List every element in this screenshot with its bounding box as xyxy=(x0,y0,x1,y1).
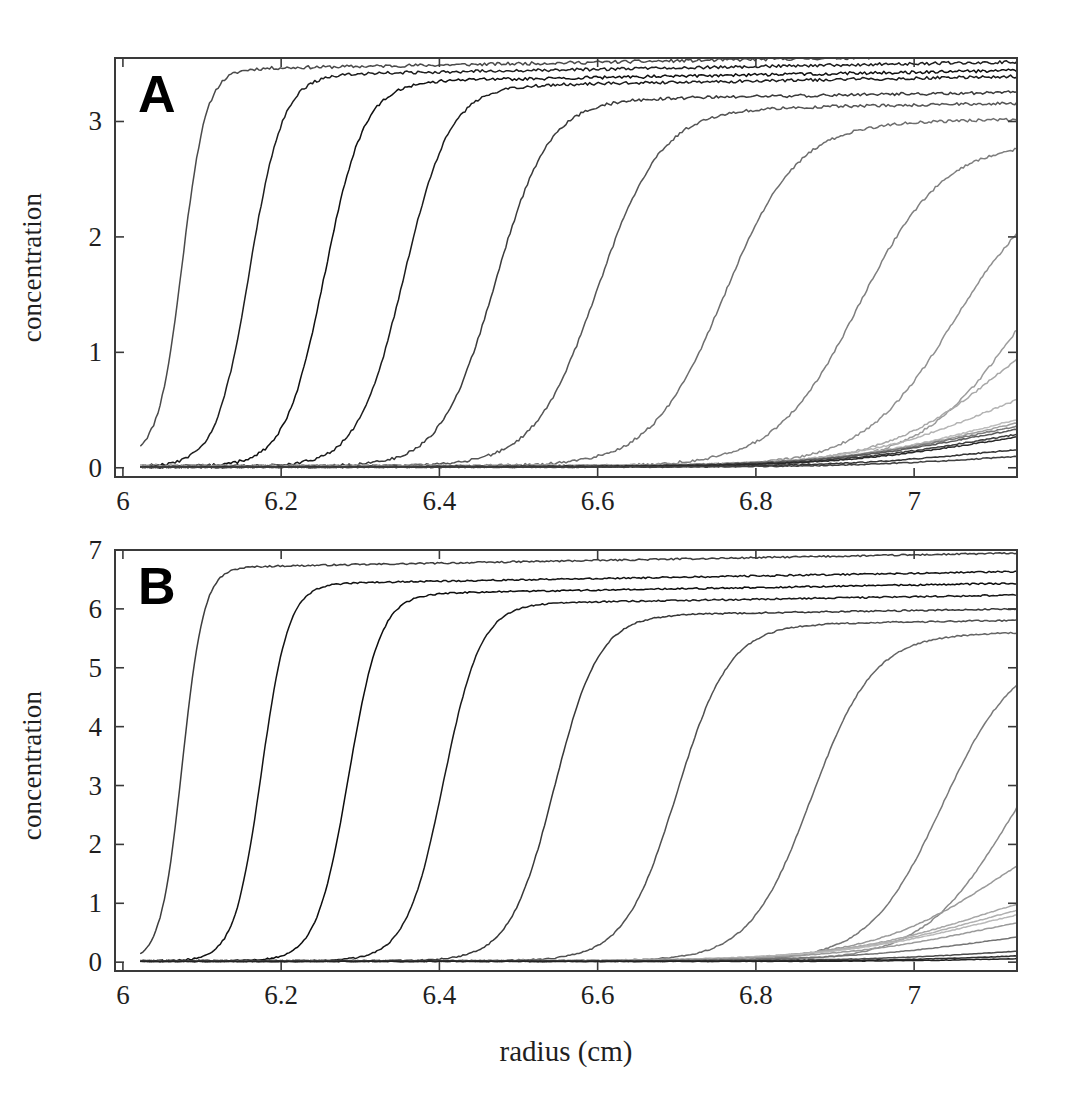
curve-b-scan-6 xyxy=(141,620,1017,962)
curve-b-scan-8 xyxy=(141,685,1017,962)
plot-frame-b xyxy=(115,550,1017,971)
y-tick-label-b-3: 3 xyxy=(66,770,102,801)
curve-b-scan-1 xyxy=(141,553,1017,954)
curve-a-scan-5 xyxy=(141,91,1017,468)
y-tick-label-b-0: 0 xyxy=(66,947,102,978)
panel-b-letter: B xyxy=(138,560,176,612)
x-tick-label-a-3: 6.6 xyxy=(581,486,615,517)
curve-a-scan-9 xyxy=(141,233,1017,468)
x-tick-label-a-2: 6.4 xyxy=(423,486,457,517)
x-tick-label-b-3: 6.6 xyxy=(581,980,615,1011)
panel-a xyxy=(114,57,1018,478)
curve-b-scan-2 xyxy=(141,571,1017,961)
curve-a-scan-8 xyxy=(141,148,1017,467)
panel-a-letter: A xyxy=(138,68,176,120)
y-tick-label-a-0: 0 xyxy=(66,452,102,483)
curve-b-scan-9 xyxy=(141,807,1017,962)
curve-a-scan-4 xyxy=(141,75,1017,468)
y-tick-label-a-1: 1 xyxy=(66,337,102,368)
y-tick-label-b-4: 4 xyxy=(66,711,102,742)
x-tick-label-a-1: 6.2 xyxy=(264,486,298,517)
y-tick-label-a-2: 2 xyxy=(66,221,102,252)
x-tick-label-b-4: 6.8 xyxy=(739,980,773,1011)
curve-b-scan-3 xyxy=(141,583,1017,962)
curve-b-scan-7 xyxy=(141,632,1017,961)
panel-b xyxy=(114,549,1018,972)
curve-b-scan-13 xyxy=(141,915,1017,961)
x-tick-label-b-1: 6.2 xyxy=(264,980,298,1011)
x-tick-label-b-2: 6.4 xyxy=(423,980,457,1011)
curve-a-scan-3 xyxy=(141,69,1017,468)
figure-root: A concentration 66.26.46.66.870123 B con… xyxy=(0,0,1075,1107)
y-tick-label-b-2: 2 xyxy=(66,829,102,860)
x-tick-label-b-0: 6 xyxy=(116,980,130,1011)
y-tick-label-a-3: 3 xyxy=(66,106,102,137)
y-tick-label-b-6: 6 xyxy=(66,593,102,624)
y-tick-label-b-5: 5 xyxy=(66,652,102,683)
y-tick-label-b-1: 1 xyxy=(66,888,102,919)
x-tick-label-a-0: 6 xyxy=(116,486,130,517)
x-tick-label-a-5: 7 xyxy=(907,486,921,517)
panel-b-plot xyxy=(114,549,1018,972)
panel-a-y-axis-label: concentration xyxy=(17,158,48,378)
curve-a-scan-7 xyxy=(141,118,1017,467)
y-tick-label-b-7: 7 xyxy=(66,535,102,566)
x-tick-label-b-5: 7 xyxy=(907,980,921,1011)
panel-b-y-axis-label: concentration xyxy=(17,656,48,876)
panel-a-plot xyxy=(114,57,1018,478)
panel-b-x-axis-label: radius (cm) xyxy=(114,1035,1018,1068)
curve-a-scan-2 xyxy=(141,61,1017,467)
x-tick-label-a-4: 6.8 xyxy=(739,486,773,517)
